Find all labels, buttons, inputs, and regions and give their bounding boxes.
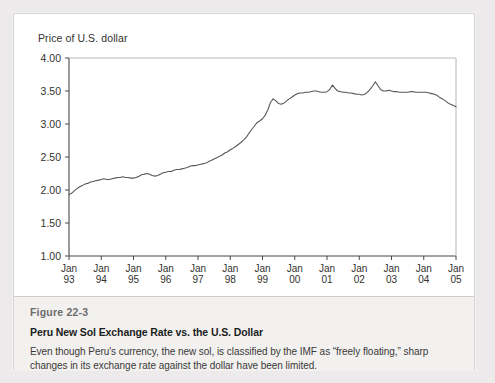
axis-lines — [69, 58, 456, 256]
figure-description: Even though Peru's currency, the new sol… — [30, 345, 458, 373]
x-tick-label-year: 01 — [321, 274, 333, 285]
x-tick-label-month: Jan — [190, 263, 206, 274]
y-axis-ticks: 1.001.502.002.503.003.504.00 — [41, 52, 69, 262]
y-tick-label: 3.00 — [41, 118, 62, 130]
x-tick-label-month: Jan — [254, 263, 270, 274]
x-tick-label-month: Jan — [448, 263, 464, 274]
y-tick-label: 4.00 — [41, 52, 62, 64]
x-tick-label-month: Jan — [351, 263, 367, 274]
x-tick-label-year: 93 — [63, 274, 75, 285]
x-tick-label-year: 99 — [257, 274, 269, 285]
x-tick-label-year: 03 — [386, 274, 398, 285]
y-tick-label: 1.50 — [41, 217, 62, 229]
exchange-rate-line-chart: 1.001.502.002.503.003.504.00 Jan93Jan94J… — [14, 14, 476, 296]
x-tick-label-month: Jan — [383, 263, 399, 274]
x-tick-label-year: 98 — [225, 274, 237, 285]
x-tick-label-year: 97 — [192, 274, 204, 285]
x-tick-label-year: 96 — [160, 274, 172, 285]
x-tick-label-month: Jan — [222, 263, 238, 274]
x-tick-label-month: Jan — [158, 263, 174, 274]
y-tick-label: 2.00 — [41, 184, 62, 196]
x-tick-label-year: 00 — [289, 274, 301, 285]
x-tick-label-year: 04 — [418, 274, 430, 285]
x-tick-label-year: 05 — [450, 274, 462, 285]
figure-card: Price of U.S. dollar 1.001.502.002.503.0… — [13, 13, 475, 370]
y-tick-label: 2.50 — [41, 151, 62, 163]
figure-caption: Figure 22-3 Peru New Sol Exchange Rate v… — [14, 296, 474, 371]
figure-number: Figure 22-3 — [30, 306, 458, 318]
x-tick-label-month: Jan — [287, 263, 303, 274]
x-tick-label-month: Jan — [319, 263, 335, 274]
x-tick-label-year: 94 — [96, 274, 108, 285]
x-tick-label-month: Jan — [416, 263, 432, 274]
x-tick-label-month: Jan — [61, 263, 77, 274]
y-tick-label: 1.00 — [41, 250, 62, 262]
chart-area: Price of U.S. dollar 1.001.502.002.503.0… — [14, 14, 474, 296]
x-tick-label-year: 02 — [354, 274, 366, 285]
exchange-rate-series — [69, 82, 456, 195]
y-tick-label: 3.50 — [41, 85, 62, 97]
x-axis-ticks: Jan93Jan94Jan95Jan96Jan97Jan98Jan99Jan00… — [61, 256, 464, 285]
x-tick-label-month: Jan — [125, 263, 141, 274]
x-tick-label-month: Jan — [93, 263, 109, 274]
figure-title: Peru New Sol Exchange Rate vs. the U.S. … — [30, 326, 458, 338]
x-tick-label-year: 95 — [128, 274, 140, 285]
